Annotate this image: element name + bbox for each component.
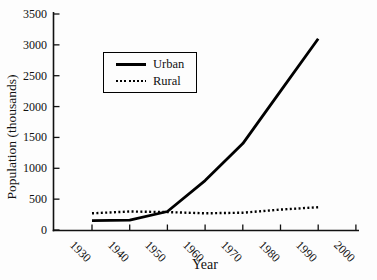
x-axis-title: Year xyxy=(192,257,218,273)
y-axis-title: Population (thousands) xyxy=(4,75,20,200)
rural-dotted-line-swatch xyxy=(116,80,146,83)
population-line-chart: 0500100015002000250030003500193019401950… xyxy=(0,0,377,280)
legend: Urban Rural xyxy=(103,52,197,93)
urban-solid-line-swatch xyxy=(116,63,146,66)
legend-item-urban: Urban xyxy=(116,58,196,71)
y-tick-label-3500: 3500 xyxy=(13,7,47,21)
legend-item-rural: Rural xyxy=(116,75,196,88)
legend-label-rural: Rural xyxy=(153,75,181,88)
y-tick-label-3000: 3000 xyxy=(13,38,47,52)
y-tick-label-0: 0 xyxy=(13,223,47,237)
rural-line-series xyxy=(92,207,318,213)
legend-label-urban: Urban xyxy=(153,58,184,71)
